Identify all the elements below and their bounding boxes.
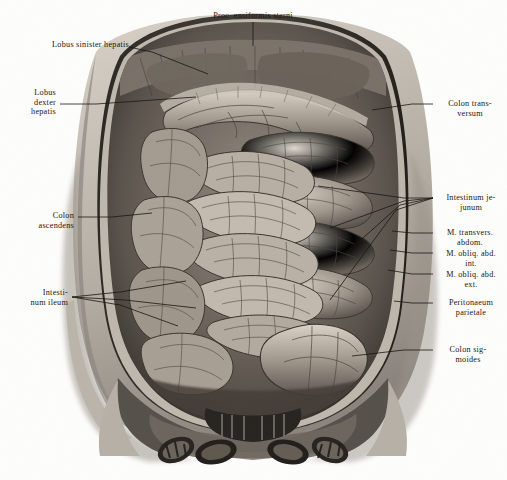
label-lobus-sinister-hepatis: Lobus sinister hepatis xyxy=(6,40,129,50)
label-colon-ascendens: Colon ascendens xyxy=(4,211,74,230)
label-colon-transversum: Colon trans- versum xyxy=(437,99,503,118)
label-lobus-dexter-hepatis: Lobus dexter hepatis xyxy=(4,88,56,117)
label-m-obliq-abd-ext: M. obliq. abd. ext. xyxy=(437,270,505,289)
label-intestinum-jejunum: Intestinum je- junum xyxy=(437,193,505,212)
label-intestinum-ileum: Intesti- num ileum xyxy=(2,288,68,307)
anatomical-plate: Proc. ensiformis sterni Lobus sinister h… xyxy=(0,0,507,480)
illustration-canvas xyxy=(0,0,507,480)
label-m-obliq-abd-int: M. obliq. abd. int. xyxy=(437,249,505,268)
label-peritonaeum-parietale: Peritonaeum parietale xyxy=(437,298,505,317)
label-proc-ensiformis-sterni: Proc. ensiformis sterni xyxy=(196,11,310,21)
label-colon-sigmoides: Colon sig- moides xyxy=(437,345,499,364)
label-m-transvers-abdom: M. transvers. abdom. xyxy=(437,228,503,247)
